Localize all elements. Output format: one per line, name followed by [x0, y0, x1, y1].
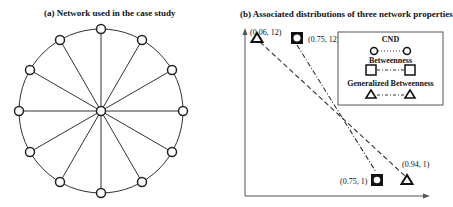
- square-icon: [366, 65, 376, 75]
- spoke-edge: [30, 70, 101, 111]
- circle-icon: [371, 48, 378, 55]
- rim-node: [56, 178, 65, 187]
- rim-node: [56, 35, 65, 44]
- y-axis-arrow-icon: [243, 28, 248, 35]
- spoke-edge: [101, 111, 172, 152]
- rim-node: [97, 189, 106, 198]
- spoke-edge: [101, 70, 172, 111]
- legend: CND Betweenness Generalized Betweenness: [338, 32, 443, 105]
- rim-node: [138, 178, 147, 187]
- spoke-edge: [101, 111, 142, 182]
- circle-icon: [404, 48, 411, 55]
- spoke-edge: [30, 111, 101, 152]
- legend-label-generalized-betweenness: Generalized Betweenness: [347, 79, 433, 88]
- legend-label-betweenness: Betweenness: [369, 56, 412, 65]
- square-icon: [405, 65, 415, 75]
- point-label: (0.75, 12): [308, 35, 340, 44]
- rim-node: [179, 107, 188, 116]
- spoke-edge: [60, 111, 101, 182]
- hub-node: [97, 107, 106, 116]
- square-circle-marker-0-75-12: [291, 32, 303, 44]
- rim-node: [138, 35, 147, 44]
- rim-node: [97, 25, 106, 34]
- wheel-network: [15, 25, 188, 198]
- x-axis-arrow-icon: [423, 194, 430, 199]
- rim-node: [25, 66, 34, 75]
- spoke-edge: [60, 40, 101, 111]
- point-label: (0.94, 1): [402, 160, 430, 169]
- legend-label-cnd: CND: [382, 35, 400, 44]
- point-label: (0.75, 1): [340, 177, 368, 186]
- triangle-marker-0-94-1: [402, 175, 413, 184]
- square-circle-marker-0-75-1: [371, 174, 383, 186]
- rim-node: [168, 148, 177, 157]
- spoke-edge: [101, 40, 142, 111]
- rim-node: [168, 66, 177, 75]
- point-label: (0.06, 12): [250, 28, 282, 37]
- rim-node: [25, 148, 34, 157]
- rim-node: [15, 107, 24, 116]
